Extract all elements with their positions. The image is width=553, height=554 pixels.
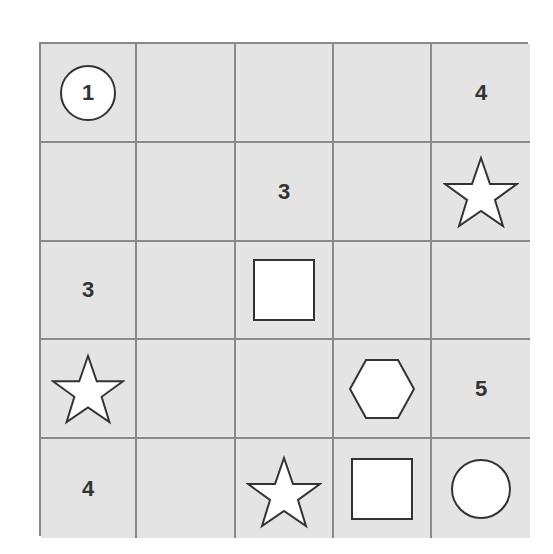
star-icon xyxy=(51,352,125,426)
cell-r0-c1[interactable] xyxy=(137,44,236,143)
cell-number: 3 xyxy=(82,277,94,303)
puzzle-grid: 1 4 3 3 5 xyxy=(39,42,528,536)
square-icon xyxy=(253,259,315,321)
cell-r3-c0[interactable] xyxy=(41,340,137,439)
cell-r3-c3[interactable] xyxy=(334,340,432,439)
star-icon xyxy=(443,155,519,229)
square-icon xyxy=(351,458,413,520)
cell-r3-c4[interactable]: 5 xyxy=(432,340,530,439)
cell-r4-c3[interactable] xyxy=(334,439,432,538)
cell-r1-c3[interactable] xyxy=(334,143,432,242)
cell-r4-c0[interactable]: 4 xyxy=(41,439,137,538)
star-icon xyxy=(246,455,322,529)
cell-r1-c1[interactable] xyxy=(137,143,236,242)
cell-r1-c2[interactable]: 3 xyxy=(236,143,334,242)
cell-r1-c4[interactable] xyxy=(432,143,530,242)
cell-r3-c2[interactable] xyxy=(236,340,334,439)
cell-r0-c3[interactable] xyxy=(334,44,432,143)
cell-r4-c1[interactable] xyxy=(137,439,236,538)
cell-r4-c2[interactable] xyxy=(236,439,334,538)
cell-r2-c1[interactable] xyxy=(137,242,236,340)
cell-r0-c2[interactable] xyxy=(236,44,334,143)
cell-r2-c2[interactable] xyxy=(236,242,334,340)
cell-r4-c4[interactable] xyxy=(432,439,530,538)
circle-icon xyxy=(450,458,512,520)
hexagon-icon xyxy=(349,359,415,419)
cell-r0-c4[interactable]: 4 xyxy=(432,44,530,143)
circle-number-icon: 1 xyxy=(60,65,116,121)
cell-r1-c0[interactable] xyxy=(41,143,137,242)
cell-r2-c3[interactable] xyxy=(334,242,432,340)
cell-r0-c0[interactable]: 1 xyxy=(41,44,137,143)
cell-number: 1 xyxy=(82,80,94,106)
cell-r2-c0[interactable]: 3 xyxy=(41,242,137,340)
cell-number: 3 xyxy=(278,179,290,205)
cell-r2-c4[interactable] xyxy=(432,242,530,340)
cell-number: 5 xyxy=(475,376,487,402)
cell-number: 4 xyxy=(82,476,94,502)
cell-number: 4 xyxy=(475,80,487,106)
cell-r3-c1[interactable] xyxy=(137,340,236,439)
